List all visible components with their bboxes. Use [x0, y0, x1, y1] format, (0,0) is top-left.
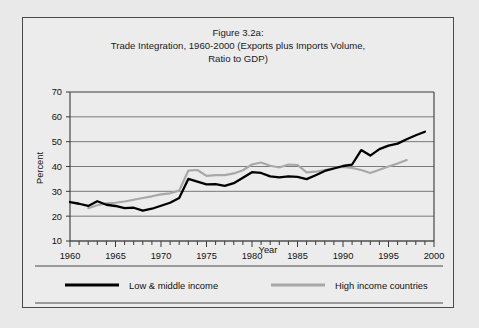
x-axis-ticks [70, 241, 434, 247]
y-tick-label-40: 40 [52, 162, 62, 172]
figure-frame: Figure 3.2a: Trade Integration, 1960-200… [22, 17, 454, 308]
y-tick-label-60: 60 [52, 112, 62, 122]
gridlines [70, 92, 434, 241]
chart-legend: Low & middle income High income countrie… [35, 266, 443, 303]
legend-label-low-middle-income: Low & middle income [129, 280, 218, 291]
x-tick-label-2000: 2000 [424, 251, 445, 261]
x-tick-label-1960: 1960 [60, 251, 81, 261]
y-tick-label-30: 30 [52, 187, 62, 197]
chart-plot-area: 70605040302010 1960196519701975198019851… [23, 18, 455, 309]
trade-integration-line-chart: 70605040302010 1960196519701975198019851… [23, 18, 455, 309]
x-tick-label-1995: 1995 [378, 251, 399, 261]
x-tick-label-1985: 1985 [287, 251, 308, 261]
data-series-group [70, 132, 425, 211]
x-axis-tick-labels: 196019651970197519801985199019952000 [60, 251, 445, 261]
series-line-low-middle-income [70, 132, 425, 211]
y-tick-label-70: 70 [52, 87, 62, 97]
series-line-high-income-countries [88, 160, 407, 208]
y-tick-label-10: 10 [52, 236, 62, 246]
y-tick-label-50: 50 [52, 137, 62, 147]
x-axis-label: Year [259, 245, 278, 255]
x-tick-label-1990: 1990 [333, 251, 354, 261]
y-axis-label: Percent [35, 152, 45, 184]
legend-label-high-income: High income countries [335, 280, 428, 291]
x-tick-label-1975: 1975 [196, 251, 217, 261]
y-tick-label-20: 20 [52, 212, 62, 222]
x-tick-label-1970: 1970 [151, 251, 172, 261]
y-axis-tick-labels: 70605040302010 [52, 87, 70, 246]
x-tick-label-1965: 1965 [105, 251, 126, 261]
